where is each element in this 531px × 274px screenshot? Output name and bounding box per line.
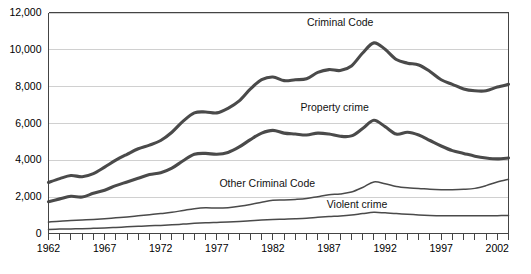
x-axis-tick-label: 1992 [373,242,397,254]
x-axis-tick-label: 1962 [37,242,61,254]
x-axis-tick-label: 1967 [93,242,117,254]
y-axis-tick-label: 8,000 [15,80,41,92]
series-label-property-crime: Property crime [300,101,368,113]
y-axis-tick-label: 6,000 [15,117,41,129]
y-axis-tick-label: 12,000 [9,6,41,18]
gridlines [49,13,509,197]
x-axis-tick-label: 1977 [205,242,229,254]
x-axis-tick-label: 1972 [149,242,173,254]
y-axis-labels: 02,0004,0006,0008,00010,00012,000 [9,6,41,239]
series-line-violent-crime [49,212,509,229]
x-axis-tick-label: 2002 [486,242,510,254]
crime-rate-line-chart: 02,0004,0006,0008,00010,00012,000 196219… [0,0,531,274]
series-line-criminal-code [49,43,509,183]
y-axis-tick-label: 10,000 [9,43,41,55]
x-axis-tick-marks [49,234,509,240]
x-axis-tick-label: 1997 [430,242,454,254]
y-axis-tick-label: 0 [36,227,42,239]
x-axis-labels: 196219671972197719821987199219972002 [37,242,509,254]
y-axis-tick-label: 2,000 [15,190,41,202]
series-inline-labels: Criminal CodeProperty crimeOther Crimina… [219,16,387,209]
x-axis-tick-label: 1982 [261,242,285,254]
series-label-violent-crime: Violent crime [327,198,388,210]
x-axis-tick-label: 1987 [317,242,341,254]
y-axis-tick-label: 4,000 [15,153,41,165]
chart-canvas: 02,0004,0006,0008,00010,00012,000 196219… [0,0,531,274]
series-lines [49,43,509,230]
series-label-other-criminal-code: Other Criminal Code [219,177,315,189]
series-label-criminal-code: Criminal Code [307,16,374,28]
